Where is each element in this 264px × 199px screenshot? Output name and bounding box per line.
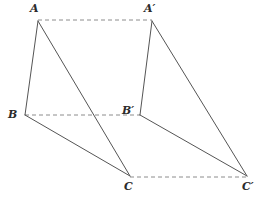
translation-lines-group <box>25 20 247 177</box>
triangle-edges-group <box>25 21 247 176</box>
edge-A-C <box>38 21 130 176</box>
edge-Ap-Bp <box>140 21 152 115</box>
vertex-label-C: C <box>124 181 133 192</box>
edge-A-B <box>25 21 38 115</box>
edge-B-C <box>25 115 130 176</box>
vertex-label-A: A <box>30 3 39 14</box>
vertex-label-B: B <box>8 109 17 120</box>
geometry-figure: ABCA′B′C′ <box>0 0 264 199</box>
figure-canvas <box>0 0 264 199</box>
vertex-label-Cp: C′ <box>242 181 254 192</box>
vertex-label-Bp: B′ <box>122 105 134 116</box>
vertex-label-Ap: A′ <box>144 3 155 14</box>
edge-Ap-Cp <box>152 21 247 176</box>
edge-Bp-Cp <box>140 115 247 176</box>
